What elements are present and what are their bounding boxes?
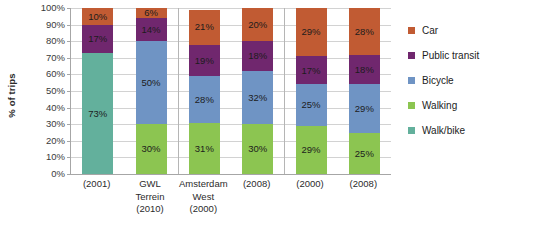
- chart-legend: CarPublic transitBicycleWalkingWalk/bike: [408, 18, 548, 143]
- bar-stack[interactable]: 31%28%19%21%: [189, 8, 220, 174]
- x-axis-label-line: GWL: [123, 178, 176, 191]
- y-axis-tick-mark: [67, 58, 71, 59]
- legend-item[interactable]: Car: [408, 18, 548, 43]
- bar-segment[interactable]: 25%: [349, 133, 380, 175]
- bar-stack[interactable]: 30%32%18%20%: [242, 8, 273, 174]
- bar-segment[interactable]: 28%: [349, 8, 380, 54]
- y-axis-tick-mark: [67, 74, 71, 75]
- y-axis-tick-label: 70%: [46, 53, 65, 63]
- bar-segment-label: 18%: [248, 51, 267, 61]
- bar-segment-label: 31%: [195, 144, 214, 154]
- gridline: [71, 58, 391, 59]
- bar-segment[interactable]: 29%: [349, 84, 380, 132]
- bar-segment-label: 29%: [301, 145, 320, 155]
- y-axis-title: % of trips: [2, 0, 20, 190]
- bar-segment-label: 30%: [248, 144, 267, 154]
- bar-segment[interactable]: 17%: [82, 25, 113, 53]
- gridline: [71, 108, 391, 109]
- bar-segment[interactable]: 30%: [136, 124, 167, 174]
- bar-segment-label: 30%: [141, 144, 160, 154]
- plot-area: 73%17%10%30%50%14%6%31%28%19%21%30%32%18…: [70, 8, 391, 175]
- bar-segment[interactable]: 18%: [242, 41, 273, 71]
- bar-segment[interactable]: 25%: [296, 84, 327, 126]
- y-axis-tick-label: 30%: [46, 119, 65, 129]
- y-axis-tick-mark: [67, 41, 71, 42]
- legend-item[interactable]: Public transit: [408, 43, 548, 68]
- bar-segment[interactable]: 17%: [296, 56, 327, 84]
- legend-label: Bicycle: [422, 75, 454, 86]
- bar-segment-label: 73%: [88, 109, 107, 119]
- gridline: [71, 141, 391, 142]
- x-axis-label-line: (2000): [283, 178, 336, 191]
- bar-segment[interactable]: 31%: [189, 123, 220, 174]
- bar-segment[interactable]: 14%: [136, 18, 167, 41]
- legend-label: Walk/bike: [422, 125, 465, 136]
- bar-segment-label: 14%: [141, 25, 160, 35]
- bar-segment[interactable]: 29%: [296, 126, 327, 174]
- legend-item[interactable]: Walking: [408, 93, 548, 118]
- gridline: [71, 124, 391, 125]
- gridline: [71, 25, 391, 26]
- bar-segment[interactable]: 30%: [242, 124, 273, 174]
- bar-segment-label: 19%: [195, 56, 214, 66]
- legend-swatch-icon: [408, 52, 415, 59]
- bar-segment-label: 28%: [355, 27, 374, 37]
- y-axis-tick-mark: [67, 91, 71, 92]
- x-axis-label-line: West: [177, 191, 230, 204]
- y-axis-title-text: % of trips: [6, 73, 17, 117]
- bar-segment[interactable]: 29%: [296, 8, 327, 56]
- bar-stack[interactable]: 29%25%17%29%: [296, 8, 327, 174]
- bar-stack[interactable]: 30%50%14%6%: [136, 8, 167, 174]
- x-axis-category-label: (2008): [230, 178, 283, 191]
- legend-item[interactable]: Bicycle: [408, 68, 548, 93]
- legend-swatch-icon: [408, 27, 415, 34]
- gridline: [71, 8, 391, 9]
- bar-stack[interactable]: 25%29%18%28%: [349, 8, 380, 174]
- bar-segment-label: 28%: [195, 95, 214, 105]
- gridline: [71, 91, 391, 92]
- bar-segment[interactable]: 73%: [82, 53, 113, 174]
- x-axis-label-line: (2008): [230, 178, 283, 191]
- gridline: [71, 74, 391, 75]
- x-axis-label-line: (2010): [123, 203, 176, 216]
- bar-segment-label: 20%: [248, 20, 267, 30]
- bar-segment-label: 25%: [301, 100, 320, 110]
- x-axis-category-label: (2000): [283, 178, 336, 191]
- bar-segment[interactable]: 18%: [349, 55, 380, 85]
- y-axis-tick-label: 0%: [51, 169, 65, 179]
- x-axis-label-line: (2000): [177, 203, 230, 216]
- y-axis-tick-mark: [67, 141, 71, 142]
- bar-stack[interactable]: 73%17%10%: [82, 8, 113, 174]
- legend-label: Car: [422, 25, 438, 36]
- bar-segment[interactable]: 10%: [82, 8, 113, 25]
- x-axis-label-line: Amsterdam: [177, 178, 230, 191]
- legend-label: Walking: [422, 100, 457, 111]
- bar-segment[interactable]: 50%: [136, 41, 167, 124]
- bar-segment-label: 29%: [355, 104, 374, 114]
- y-axis-tick-labels: 0%10%20%30%40%50%60%70%80%90%100%: [20, 8, 68, 174]
- y-axis-tick-mark: [67, 25, 71, 26]
- bar-segment[interactable]: 21%: [189, 10, 220, 45]
- bar-segment[interactable]: 28%: [189, 76, 220, 122]
- bar-segment[interactable]: 19%: [189, 45, 220, 77]
- y-axis-tick-mark: [67, 8, 71, 9]
- x-axis-label-line: (2008): [337, 178, 390, 191]
- legend-swatch-icon: [408, 102, 415, 109]
- y-axis-tick-mark: [67, 157, 71, 158]
- y-axis-tick-label: 10%: [46, 153, 65, 163]
- y-axis-tick-mark: [67, 124, 71, 125]
- bar-segment[interactable]: 32%: [242, 71, 273, 124]
- y-axis-tick-label: 90%: [46, 20, 65, 30]
- bar-segment-label: 18%: [355, 65, 374, 75]
- y-axis-tick-label: 50%: [46, 86, 65, 96]
- bar-segment-label: 50%: [141, 78, 160, 88]
- legend-swatch-icon: [408, 127, 415, 134]
- x-axis-category-labels: (2001)GWLTerrein(2010)AmsterdamWest(2000…: [70, 178, 390, 228]
- group-separator-line: [178, 8, 179, 174]
- x-axis-category-label: GWLTerrein(2010): [123, 178, 176, 216]
- bar-segment[interactable]: 6%: [136, 8, 167, 18]
- bar-segment[interactable]: 20%: [242, 8, 273, 41]
- bar-segment-label: 17%: [88, 34, 107, 44]
- legend-item[interactable]: Walk/bike: [408, 118, 548, 143]
- bar-segment-label: 17%: [301, 66, 320, 76]
